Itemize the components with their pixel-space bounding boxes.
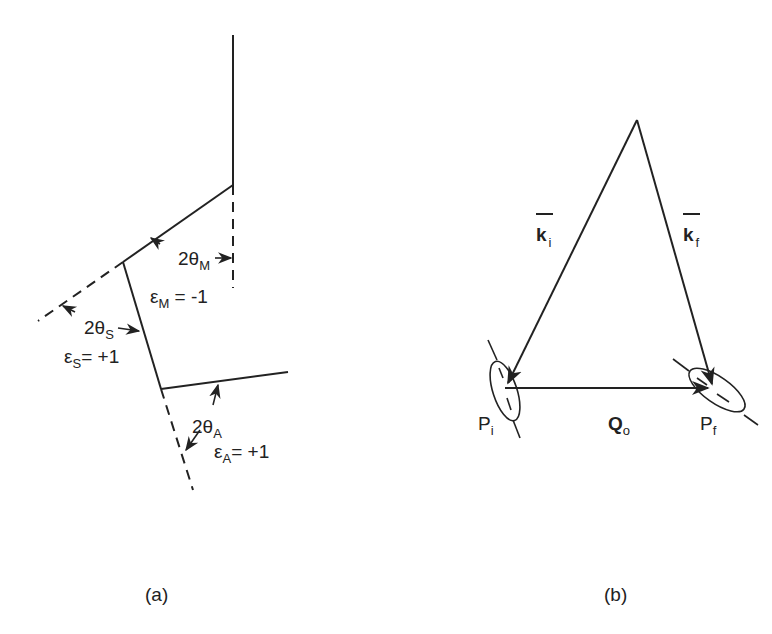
label-epsilon-m: εM = -1 xyxy=(150,286,208,311)
sample-to-analyzer-line xyxy=(123,262,161,389)
caption-a: (a) xyxy=(145,584,168,605)
caption-b: (b) xyxy=(604,584,627,605)
resolution-ellipse-pf xyxy=(673,359,758,425)
arrow-2theta-s-right xyxy=(118,328,139,331)
arrow-2theta-s-left xyxy=(63,306,75,312)
arrow-2theta-a-up xyxy=(213,385,218,405)
figure-canvas: 2θM εM = -1 2θS εS= +1 2θA εA= +1 (a) xyxy=(0,0,772,634)
label-q-o: Qo xyxy=(608,413,630,438)
panel-b-diagram xyxy=(484,120,758,438)
vector-k-i xyxy=(508,120,637,383)
sample-extension-dashed xyxy=(38,262,123,321)
label-2theta-s: 2θS xyxy=(84,317,114,342)
label-epsilon-s: εS= +1 xyxy=(64,346,119,371)
label-k-i: ki xyxy=(536,224,552,250)
vector-k-f xyxy=(637,120,712,384)
label-p-i: Pi xyxy=(478,413,494,438)
analyzer-to-detector-line xyxy=(161,372,288,389)
label-2theta-a: 2θA xyxy=(192,416,222,441)
label-k-f: kf xyxy=(683,224,700,250)
analyzer-extension-dashed xyxy=(161,389,193,490)
label-2theta-m: 2θM xyxy=(178,248,210,273)
panel-a-diagram xyxy=(38,35,288,490)
label-p-f: Pf xyxy=(700,413,717,438)
panel-a-labels: 2θM εM = -1 2θS εS= +1 2θA εA= +1 (a) xyxy=(64,248,269,605)
label-epsilon-a: εA= +1 xyxy=(214,441,269,466)
